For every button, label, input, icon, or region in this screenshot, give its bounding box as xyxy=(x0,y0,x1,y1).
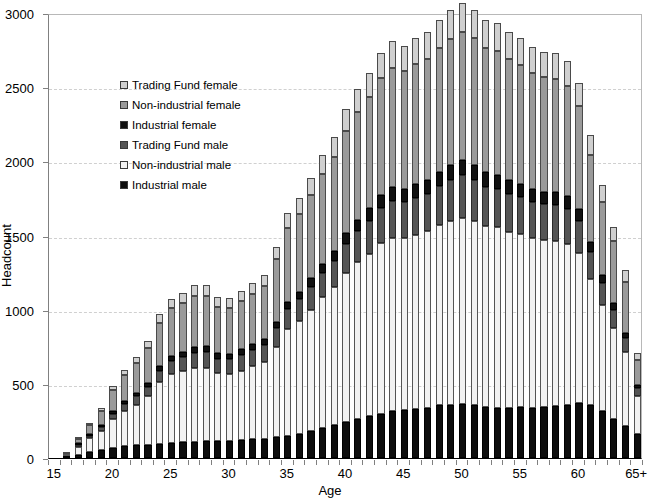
bar-64 xyxy=(622,270,629,458)
bar-segment-non-industrial-male xyxy=(179,371,186,442)
bar-segment-trading-fund-female xyxy=(214,297,221,306)
x-axis-tick-mark xyxy=(491,460,492,465)
bar-segment-trading-fund-female xyxy=(505,32,512,59)
x-axis-tick-label: 50 xyxy=(454,467,468,481)
bar-segment-non-industrial-female xyxy=(214,307,221,354)
x-axis-tick-mark xyxy=(188,460,189,465)
bar-segment-industrial-male xyxy=(634,434,641,458)
bar-segment-non-industrial-female xyxy=(564,86,571,197)
bar-segment-non-industrial-male xyxy=(261,362,268,439)
bar-segment-trading-fund-male xyxy=(494,189,501,228)
x-axis-title: Age xyxy=(0,483,660,498)
bar-segment-non-industrial-female xyxy=(540,77,547,192)
x-axis-tick-mark xyxy=(560,460,561,465)
bar-17 xyxy=(75,437,82,458)
bar-29 xyxy=(214,297,221,458)
bar-segment-trading-fund-female xyxy=(494,23,501,51)
legend-swatch-icon xyxy=(120,101,128,109)
bar-segment-non-industrial-male xyxy=(389,238,396,412)
bar-segment-trading-fund-female xyxy=(436,20,443,47)
bar-segment-trading-fund-male xyxy=(133,396,140,404)
bar-segment-industrial-male xyxy=(226,441,233,459)
bar-segment-industrial-male xyxy=(319,428,326,458)
x-axis-tick-mark xyxy=(269,460,270,465)
bar-segment-trading-fund-female xyxy=(319,155,326,174)
y-axis-tick-label: 2500 xyxy=(5,82,34,95)
bar-segment-non-industrial-female xyxy=(109,390,116,411)
legend-item-trading-fund-female[interactable]: Trading Fund female xyxy=(120,75,280,95)
bar-24 xyxy=(156,314,163,458)
bar-segment-industrial-male xyxy=(261,439,268,458)
x-axis-tick-mark xyxy=(95,460,96,465)
bar-segment-trading-fund-male xyxy=(622,338,629,352)
bar-segment-industrial-male xyxy=(447,405,454,458)
bar-segment-non-industrial-male xyxy=(249,366,256,439)
bar-segment-non-industrial-female xyxy=(133,363,140,393)
bar-segment-trading-fund-female xyxy=(389,41,396,67)
bar-segment-non-industrial-female xyxy=(424,59,431,180)
bar-segment-non-industrial-male xyxy=(505,232,512,408)
bar-segment-trading-fund-male xyxy=(599,283,606,305)
bar-segment-non-industrial-male xyxy=(238,371,245,441)
bar-segment-non-industrial-female xyxy=(471,38,478,165)
bar-31 xyxy=(238,291,245,458)
bar-segment-industrial-male xyxy=(436,405,443,458)
bar-59 xyxy=(564,61,571,458)
bar-segment-industrial-male xyxy=(412,409,419,458)
x-axis-tick-mark xyxy=(130,460,131,465)
bar-segment-trading-fund-male xyxy=(412,198,419,235)
bar-segment-trading-fund-male xyxy=(179,357,186,371)
bar-segment-industrial-female xyxy=(471,165,478,180)
bar-segment-non-industrial-female xyxy=(634,360,641,386)
bar-segment-trading-fund-male xyxy=(564,209,571,244)
bar-56 xyxy=(529,47,536,458)
bar-segment-non-industrial-female xyxy=(121,375,128,401)
bar-segment-industrial-female xyxy=(354,220,361,232)
bar-segment-non-industrial-female xyxy=(156,323,163,366)
bar-segment-industrial-female xyxy=(494,175,501,189)
legend-item-non-industrial-male[interactable]: Non-industrial male xyxy=(120,155,280,175)
bar-segment-non-industrial-male xyxy=(331,287,338,424)
x-axis-tick-mark xyxy=(258,460,259,465)
bar-segment-trading-fund-female xyxy=(401,46,408,71)
bar-segment-non-industrial-male xyxy=(203,368,210,441)
bar-segment-non-industrial-male xyxy=(133,405,140,446)
bar-segment-industrial-male xyxy=(494,408,501,458)
bar-segment-non-industrial-male xyxy=(540,240,547,407)
legend-item-trading-fund-male[interactable]: Trading Fund male xyxy=(120,135,280,155)
x-axis-tick-mark xyxy=(619,460,620,465)
bar-segment-industrial-male xyxy=(529,408,536,458)
bar-segment-industrial-female xyxy=(319,264,326,273)
legend-item-industrial-female[interactable]: Industrial female xyxy=(120,115,280,135)
bar-37 xyxy=(307,178,314,458)
legend-item-industrial-male[interactable]: Industrial male xyxy=(120,175,280,195)
legend-swatch-icon xyxy=(120,181,128,189)
bar-segment-industrial-male xyxy=(401,410,408,458)
bar-segment-industrial-male xyxy=(86,452,93,458)
bar-segment-industrial-male xyxy=(296,434,303,458)
bar-28 xyxy=(203,285,210,458)
bar-segment-non-industrial-male xyxy=(342,273,349,422)
bar-segment-industrial-male xyxy=(109,448,116,458)
bar-segment-non-industrial-male xyxy=(86,438,93,452)
bar-segment-non-industrial-male xyxy=(587,279,594,406)
bar-60 xyxy=(575,83,582,458)
bar-segment-non-industrial-male xyxy=(436,225,443,405)
bar-segment-trading-fund-male xyxy=(552,205,559,241)
bar-segment-trading-fund-male xyxy=(610,310,617,329)
legend-item-non-industrial-female[interactable]: Non-industrial female xyxy=(120,95,280,115)
x-axis-tick-mark xyxy=(223,460,224,465)
legend-swatch-icon xyxy=(120,161,128,169)
bar-segment-trading-fund-female xyxy=(261,275,268,286)
x-axis-tick-mark xyxy=(479,460,480,465)
bar-segment-non-industrial-female xyxy=(238,301,245,349)
bar-40 xyxy=(342,109,349,458)
bar-segment-industrial-female xyxy=(552,192,559,205)
legend: Trading Fund femaleNon-industrial female… xyxy=(120,75,280,195)
bar-segment-trading-fund-male xyxy=(156,371,163,382)
bar-41 xyxy=(354,89,361,458)
bar-segment-trading-fund-male xyxy=(144,387,151,396)
bar-segment-non-industrial-female xyxy=(412,64,419,184)
x-axis-tick-label: 40 xyxy=(338,467,352,481)
bar-segment-industrial-female xyxy=(529,189,536,202)
